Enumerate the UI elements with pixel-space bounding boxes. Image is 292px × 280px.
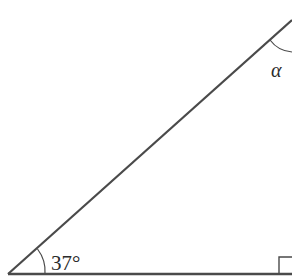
angle-arc-alpha bbox=[270, 40, 292, 52]
triangle-diagram: 37° α bbox=[0, 0, 292, 280]
right-angle-marker bbox=[279, 257, 292, 274]
angle-label-37: 37° bbox=[51, 251, 80, 275]
angle-arc-37 bbox=[38, 249, 46, 274]
angle-label-alpha: α bbox=[271, 59, 282, 81]
hypotenuse bbox=[8, 20, 292, 274]
